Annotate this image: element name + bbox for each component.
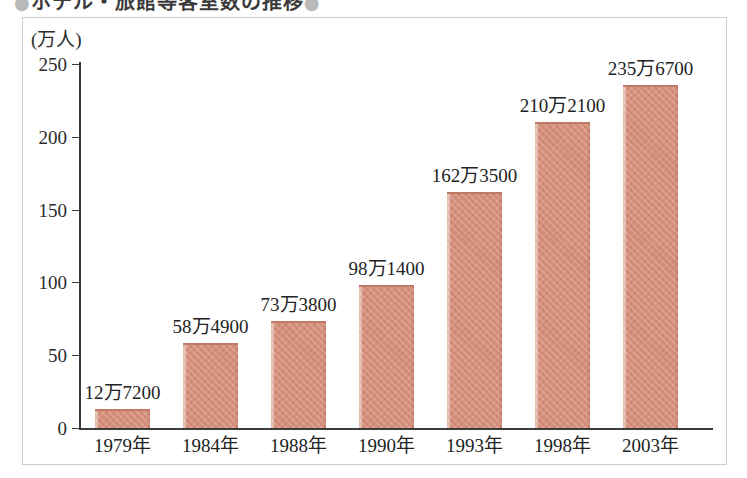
y-axis-tick-label: 50 (23, 346, 67, 365)
y-axis-tick-label: 100 (23, 273, 67, 292)
bar-value-label: 73万3800 (224, 295, 374, 314)
bar[interactable] (271, 321, 326, 428)
bar[interactable] (95, 409, 150, 428)
bar[interactable] (623, 85, 678, 428)
chart-title-strip: ●ホテル・旅館等客室数の推移● (0, 0, 747, 14)
x-axis-tick-label: 2003年 (596, 436, 706, 455)
y-axis-tick (72, 282, 79, 283)
y-axis-tick-label: 250 (23, 55, 67, 74)
y-axis-tick-label: 0 (23, 419, 67, 438)
y-axis-tick (72, 64, 79, 65)
y-axis-unit-label: (万人) (31, 24, 82, 51)
title-bullet-right: ● (304, 0, 321, 13)
y-axis-tick (72, 137, 79, 138)
chart-frame: (万人) 050100150200250 12万720058万490073万38… (22, 17, 727, 465)
bar-value-label: 235万6700 (576, 59, 726, 78)
bar[interactable] (447, 192, 502, 428)
y-axis-tick (72, 428, 79, 429)
bar-value-label: 58万4900 (136, 317, 286, 336)
chart-title: ●ホテル・旅館等客室数の推移● (14, 0, 320, 14)
bar-chart-plot: (万人) 050100150200250 12万720058万490073万38… (23, 18, 728, 466)
bar-value-label: 12万7200 (48, 383, 198, 402)
y-axis-tick-label: 200 (23, 127, 67, 146)
title-text-label: ホテル・旅館等客室数の推移 (31, 0, 304, 14)
bar-value-label: 98万1400 (312, 259, 462, 278)
bar[interactable] (183, 343, 238, 428)
x-axis-line (79, 428, 713, 430)
y-axis-tick (72, 210, 79, 211)
bar[interactable] (359, 285, 414, 428)
y-axis-tick (72, 355, 79, 356)
bar-value-label: 162万3500 (400, 166, 550, 185)
bar[interactable] (535, 122, 590, 428)
bar-value-label: 210万2100 (488, 96, 638, 115)
y-axis-line (79, 62, 81, 430)
y-axis-tick-label: 150 (23, 200, 67, 219)
title-bullet-left: ● (14, 0, 31, 13)
